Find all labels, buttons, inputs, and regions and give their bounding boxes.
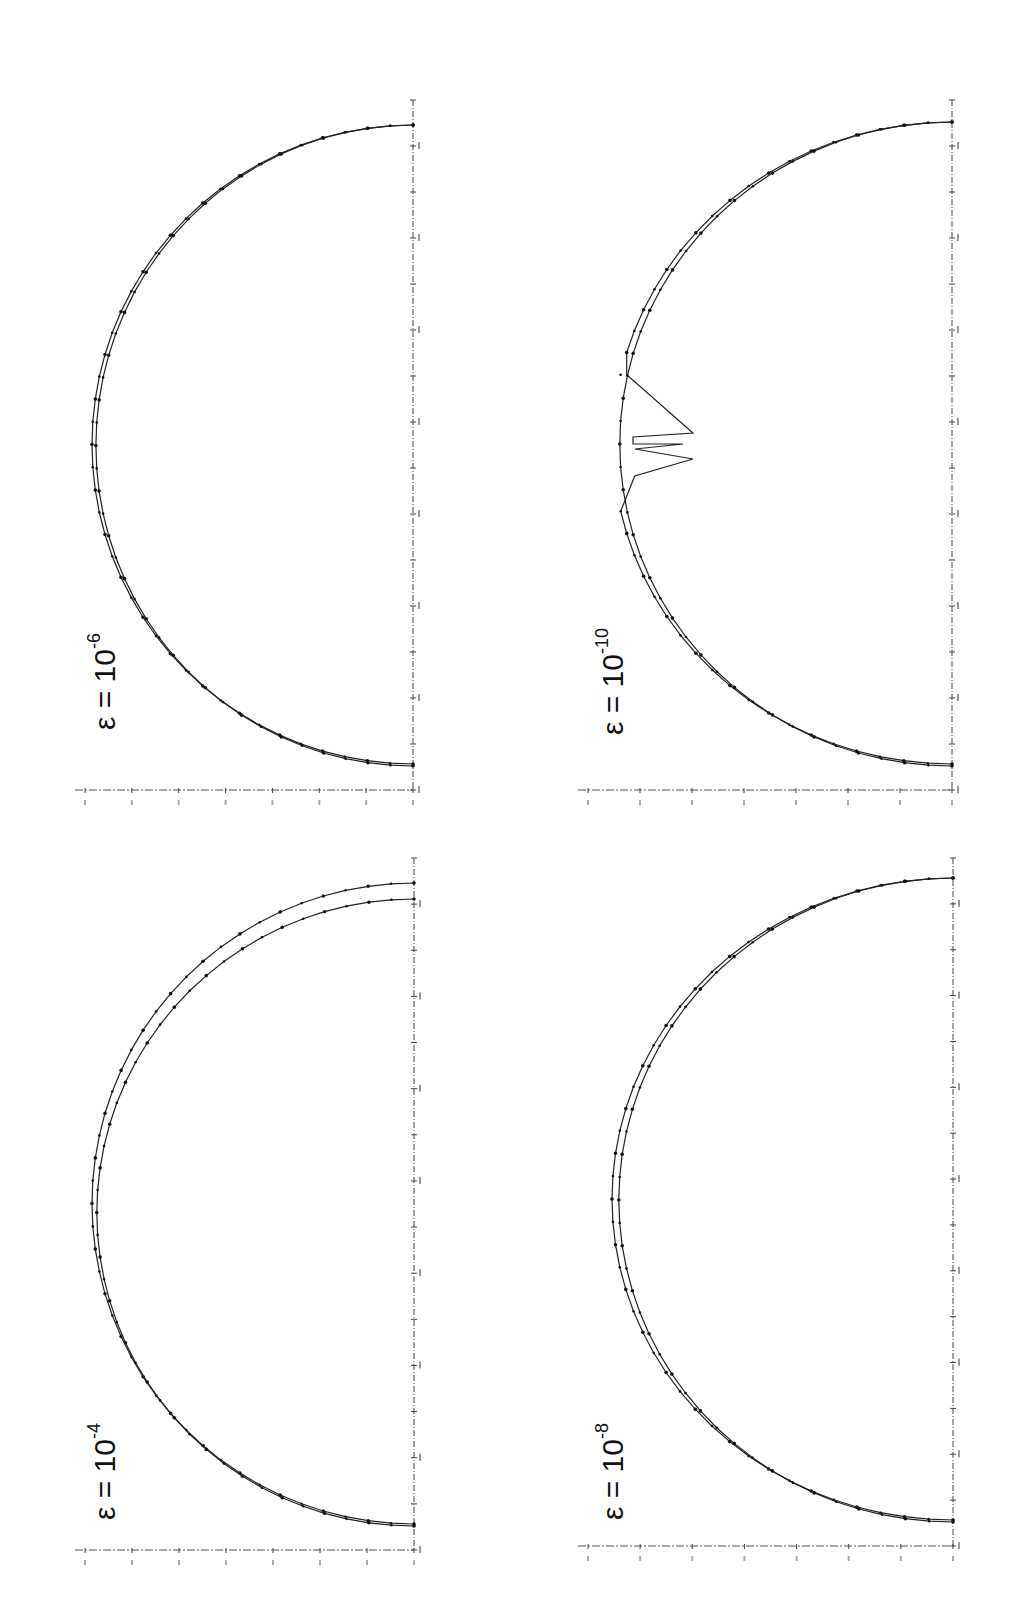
data-point — [280, 1496, 284, 1500]
data-point — [652, 1352, 655, 1355]
data-point — [699, 231, 703, 235]
data-point — [619, 510, 622, 513]
data-point — [222, 701, 225, 704]
data-point — [771, 927, 775, 931]
curve-a — [621, 122, 952, 764]
data-point — [241, 947, 245, 951]
data-point — [653, 288, 656, 291]
data-point — [98, 1255, 102, 1259]
data-point — [928, 878, 931, 881]
data-point — [159, 1023, 162, 1026]
data-point — [107, 534, 111, 538]
data-point — [92, 1225, 95, 1228]
data-point — [664, 1024, 668, 1028]
data-point — [792, 1481, 795, 1484]
data-point — [679, 1005, 682, 1008]
data-point — [301, 144, 304, 147]
data-point — [652, 1044, 655, 1047]
data-point — [94, 488, 98, 492]
data-point — [685, 636, 688, 639]
data-point — [96, 1234, 99, 1237]
data-point — [141, 1028, 145, 1032]
data-point — [618, 442, 622, 446]
data-point — [102, 512, 105, 515]
data-point — [658, 1353, 661, 1356]
data-point — [158, 252, 161, 255]
data-point — [653, 596, 656, 599]
data-point — [301, 745, 304, 748]
data-point — [618, 1222, 621, 1225]
data-point — [116, 1102, 119, 1105]
data-point — [103, 353, 107, 357]
data-point — [103, 1145, 106, 1148]
data-point — [90, 1202, 94, 1206]
data-point — [728, 955, 732, 959]
data-point — [123, 577, 127, 581]
data-point — [812, 1491, 816, 1495]
data-point — [300, 902, 303, 905]
data-point — [617, 1198, 621, 1202]
data-point — [619, 374, 622, 377]
data-point — [618, 1176, 621, 1179]
data-point — [715, 971, 718, 974]
data-point — [711, 215, 714, 218]
data-point — [732, 955, 736, 959]
data-point — [711, 1425, 714, 1428]
data-point — [241, 1474, 245, 1478]
data-point — [185, 976, 188, 979]
data-point — [633, 330, 636, 333]
data-point — [280, 926, 284, 930]
data-point — [95, 421, 98, 424]
data-point — [205, 974, 209, 978]
data-point — [792, 916, 795, 919]
data-point — [621, 396, 625, 400]
data-point — [625, 1267, 628, 1270]
data-point — [699, 987, 703, 991]
data-point — [115, 556, 118, 559]
data-point — [94, 1247, 98, 1251]
data-point — [612, 1221, 615, 1224]
data-point — [222, 188, 225, 191]
data-point — [771, 1469, 775, 1473]
panel-top-left — [75, 100, 420, 805]
data-point — [412, 1524, 416, 1528]
data-point — [880, 757, 883, 760]
data-point — [92, 1179, 95, 1182]
data-point — [92, 466, 95, 469]
data-point — [733, 199, 737, 203]
data-point — [302, 1505, 305, 1508]
data-point — [711, 669, 714, 672]
data-point — [857, 889, 861, 893]
data-point — [694, 1407, 698, 1411]
data-point — [108, 1122, 112, 1126]
data-point — [144, 270, 148, 274]
data-point — [96, 1189, 99, 1192]
data-point — [648, 576, 652, 580]
panel-bottom-left — [75, 858, 421, 1565]
data-point — [116, 1321, 119, 1324]
data-point — [904, 1517, 908, 1521]
data-point — [95, 467, 98, 470]
data-point — [631, 1289, 635, 1293]
data-point — [260, 726, 263, 729]
data-point — [642, 308, 646, 312]
data-point — [344, 757, 347, 760]
data-point — [639, 330, 642, 333]
data-point — [715, 1426, 718, 1429]
data-point — [94, 397, 98, 401]
data-point — [124, 1081, 128, 1085]
data-point — [261, 936, 264, 939]
data-point — [670, 1372, 674, 1376]
data-point — [111, 332, 114, 335]
data-point — [699, 1409, 703, 1413]
data-point — [732, 1442, 736, 1446]
data-point — [642, 575, 646, 579]
data-point — [857, 1507, 861, 1511]
data-point — [173, 1416, 177, 1420]
data-point — [185, 217, 188, 220]
data-point — [835, 897, 838, 900]
data-point — [366, 885, 370, 889]
data-point — [633, 554, 636, 557]
data-point — [614, 1152, 618, 1156]
data-point — [108, 1299, 112, 1303]
